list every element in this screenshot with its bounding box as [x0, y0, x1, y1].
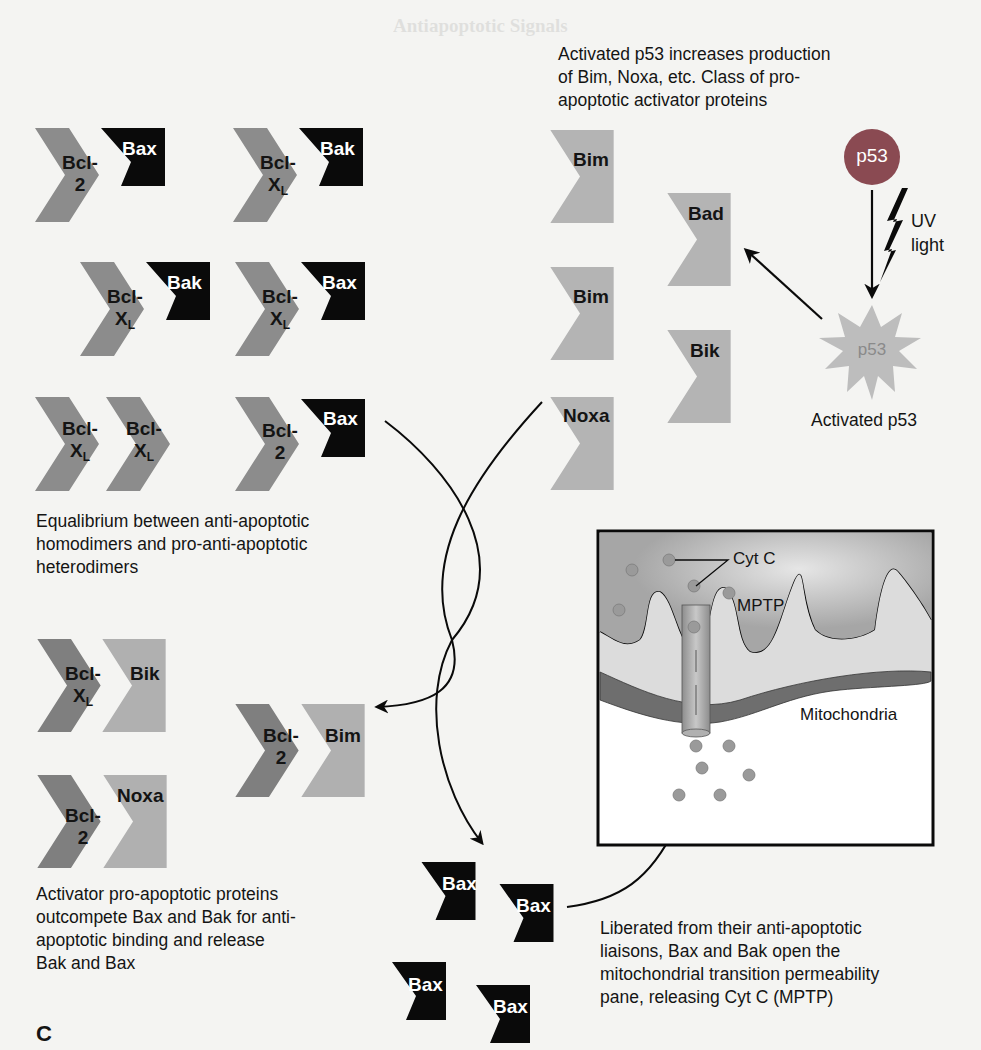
cytc-label: Cyt C	[733, 549, 776, 569]
label-noxa: Noxa	[563, 405, 609, 427]
label-bcl2: Bcl-2	[60, 152, 100, 196]
label-bclxl: Bcl-XL	[124, 418, 164, 468]
label-bik: Bik	[130, 663, 160, 685]
label-bcl2: Bcl-2	[260, 420, 300, 464]
caption-line: Activator pro-apoptotic proteins	[36, 883, 296, 906]
caption-line: outcompete Bax and Bak for anti-	[36, 906, 296, 929]
panel-letter: C	[36, 1021, 52, 1047]
label-bik: Bik	[690, 340, 720, 362]
label-bclxl: Bcl-XL	[258, 152, 298, 202]
activator-bim-2	[550, 267, 613, 360]
label-bax: Bax	[323, 408, 358, 430]
uv-light-label: UV light	[911, 209, 944, 257]
mitochondria-label: Mitochondria	[800, 705, 897, 725]
caption-line: apoptotic activator proteins	[558, 89, 830, 112]
caption-line: Equalibrium between anti-apoptotic	[36, 510, 309, 533]
label-bax: Bax	[442, 873, 477, 895]
label-bax: Bax	[493, 996, 528, 1018]
mptp-label: MPTP	[737, 596, 784, 616]
caption-line: Liberated from their anti-apoptotic	[600, 917, 879, 940]
label-bclxl: Bcl-XL	[63, 663, 103, 713]
caption-liberated: Liberated from their anti-apoptotic liai…	[600, 917, 879, 1009]
label-bak: Bak	[320, 138, 355, 160]
activated-p53-caption: Activated p53	[811, 410, 917, 431]
label-bclxl: Bcl-XL	[105, 286, 145, 336]
label-bclxl: Bcl-XL	[260, 286, 300, 336]
label-bclxl: Bcl-XL	[60, 418, 100, 468]
p53-activated-label: p53	[844, 340, 900, 360]
uv-label-line: light	[911, 233, 944, 257]
caption-line: heterodimers	[36, 556, 309, 579]
caption-activator-production: Activated p53 increases production of Bi…	[558, 43, 830, 112]
caption-line: Bak and Bax	[36, 952, 296, 975]
caption-line: Activated p53 increases production	[558, 43, 830, 66]
label-bcl2: Bcl-2	[261, 725, 301, 769]
caption-line: of Bim, Noxa, etc. Class of pro-	[558, 66, 830, 89]
caption-line: apoptotic binding and release	[36, 929, 296, 952]
caption-line: mitochondrial transition permeability	[600, 963, 879, 986]
label-bim: Bim	[573, 149, 609, 171]
label-bak: Bak	[167, 272, 202, 294]
p53-inactive-label: p53	[844, 145, 900, 167]
mitochondria-illustration	[598, 531, 933, 845]
label-bax: Bax	[516, 895, 551, 917]
label-bcl2: Bcl-2	[63, 805, 103, 849]
label-bim: Bim	[573, 286, 609, 308]
caption-line: pane, releasing Cyt C (MPTP)	[600, 986, 879, 1009]
caption-outcompete: Activator pro-apoptotic proteins outcomp…	[36, 883, 296, 975]
caption-line: liaisons, Bax and Bak open the	[600, 940, 879, 963]
label-bax: Bax	[322, 272, 357, 294]
activator-bim-1	[550, 130, 613, 223]
label-noxa: Noxa	[117, 785, 163, 807]
label-bim: Bim	[325, 725, 361, 747]
label-bax: Bax	[408, 974, 443, 996]
label-bax: Bax	[122, 138, 157, 160]
caption-equilibrium: Equalibrium between anti-apoptotic homod…	[36, 510, 309, 579]
label-bad: Bad	[688, 203, 724, 225]
caption-line: homodimers and pro-anti-apoptotic	[36, 533, 309, 556]
uv-label-line: UV	[911, 209, 944, 233]
uv-lightning-icon	[880, 188, 908, 282]
